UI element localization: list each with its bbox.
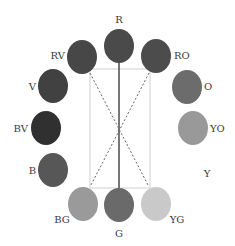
color-label-b: B: [29, 165, 36, 176]
color-label-rv: RV: [51, 50, 66, 61]
dashed-ro-bg-line: [91, 73, 149, 185]
color-node-o: [172, 70, 202, 104]
color-node-rv: [67, 40, 97, 74]
color-node-b: [38, 153, 68, 187]
color-label-ro: RO: [174, 50, 190, 61]
color-wheel-diagram: RRVROVOBVYOBYBGGYG: [0, 0, 235, 246]
color-node-bv: [31, 111, 61, 145]
color-label-yo: YO: [209, 123, 225, 134]
color-label-o: O: [204, 81, 212, 92]
color-node-yo: [178, 111, 208, 145]
color-label-v: V: [28, 81, 37, 92]
color-label-g: G: [115, 228, 123, 239]
color-label-r: R: [115, 14, 123, 25]
color-node-r: [104, 29, 134, 63]
color-node-v: [38, 69, 68, 103]
color-label-bv: BV: [13, 123, 28, 134]
color-node-bg: [68, 187, 98, 221]
connector-lines: [90, 62, 149, 190]
color-label-y: Y: [203, 168, 211, 179]
color-label-yg: YG: [169, 214, 185, 225]
color-node-ro: [141, 39, 171, 73]
color-node-g: [104, 188, 134, 222]
color-node-yg: [141, 187, 171, 221]
color-label-bg: BG: [54, 214, 70, 225]
